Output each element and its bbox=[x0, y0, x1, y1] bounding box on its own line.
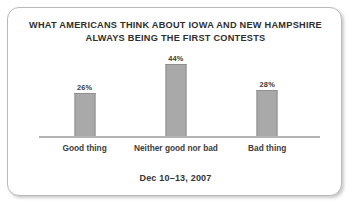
bar-group-good-thing: 26% bbox=[39, 54, 130, 136]
bar-good-thing: 26% bbox=[74, 93, 95, 136]
category-label-good-thing: Good thing bbox=[39, 143, 130, 153]
category-label-bad-thing: Bad thing bbox=[222, 143, 313, 153]
chart-card: WHAT AMERICANS THINK ABOUT IOWA AND NEW … bbox=[7, 7, 342, 196]
chart-screenshot: WHAT AMERICANS THINK ABOUT IOWA AND NEW … bbox=[0, 0, 351, 210]
x-axis-category-labels: Good thing Neither good nor bad Bad thin… bbox=[39, 143, 313, 157]
survey-date-note: Dec 10–13, 2007 bbox=[18, 173, 333, 183]
bar-bad-thing: 28% bbox=[257, 90, 278, 136]
chart-title: WHAT AMERICANS THINK ABOUT IOWA AND NEW … bbox=[18, 19, 333, 45]
category-label-neither-good-nor-bad: Neither good nor bad bbox=[130, 143, 221, 153]
bar-neither-good-nor-bad: 44% bbox=[165, 64, 186, 136]
bar-group-neither-good-nor-bad: 44% bbox=[130, 54, 221, 136]
bar-value-label-bad-thing: 28% bbox=[260, 80, 275, 89]
bar-chart-plot-area: 26% 44% 28% bbox=[39, 54, 313, 136]
x-axis-baseline bbox=[39, 136, 320, 138]
bar-group-bad-thing: 28% bbox=[222, 54, 313, 136]
bar-value-label-neither-good-nor-bad: 44% bbox=[168, 54, 183, 63]
chart-title-line-2: ALWAYS BEING THE FIRST CONTESTS bbox=[18, 32, 333, 45]
bar-value-label-good-thing: 26% bbox=[77, 83, 92, 92]
chart-title-line-1: WHAT AMERICANS THINK ABOUT IOWA AND NEW … bbox=[18, 19, 333, 32]
